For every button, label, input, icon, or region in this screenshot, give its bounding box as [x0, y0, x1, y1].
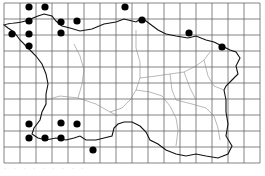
record-dot [41, 3, 48, 10]
record-dot [89, 146, 96, 153]
record-dot [25, 30, 32, 37]
record-dot [57, 119, 64, 126]
record-dot [57, 134, 64, 141]
coastline [4, 14, 240, 158]
record-dot [73, 120, 80, 127]
record-dot [218, 43, 225, 50]
record-dot [41, 134, 48, 141]
record-dot [25, 134, 32, 141]
record-dot [57, 29, 64, 36]
parish-boundaries [46, 30, 224, 146]
record-dot [25, 3, 32, 10]
record-dot [138, 16, 145, 23]
record-dot [8, 30, 15, 37]
map-caption: · · · · · · · · · [4, 165, 86, 171]
record-dot [73, 17, 80, 24]
record-dot [25, 17, 32, 24]
record-dot [25, 42, 32, 49]
record-dot [57, 18, 64, 25]
record-dot [185, 29, 192, 36]
distribution-map [0, 0, 265, 176]
record-dot [121, 3, 128, 10]
record-dot [25, 120, 32, 127]
